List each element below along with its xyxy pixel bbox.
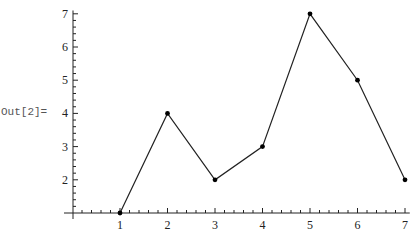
data-point	[118, 211, 123, 216]
x-tick-label: 3	[212, 218, 218, 232]
data-point	[308, 11, 313, 16]
x-tick-label: 6	[355, 218, 361, 232]
data-points	[118, 11, 408, 215]
y-tick-label: 4	[62, 106, 68, 120]
y-tick-label: 5	[62, 73, 68, 87]
x-tick-label: 5	[307, 218, 313, 232]
y-tick-label: 3	[62, 140, 68, 154]
data-point	[165, 111, 170, 116]
y-tick-label: 6	[62, 40, 68, 54]
line-plot: 1234567234567	[0, 0, 419, 237]
y-tick-label: 2	[62, 173, 68, 187]
x-tick-label: 1	[117, 218, 123, 232]
data-line	[120, 14, 405, 213]
x-tick-label: 4	[260, 218, 266, 232]
x-tick-label: 7	[402, 218, 408, 232]
data-point	[213, 177, 218, 182]
data-point	[355, 78, 360, 83]
x-tick-label: 2	[165, 218, 171, 232]
data-point	[403, 177, 408, 182]
y-tick-label: 7	[62, 7, 68, 21]
axes	[64, 10, 410, 219]
data-point	[260, 144, 265, 149]
axis-ticks	[73, 14, 405, 213]
tick-labels: 1234567234567	[62, 7, 408, 232]
